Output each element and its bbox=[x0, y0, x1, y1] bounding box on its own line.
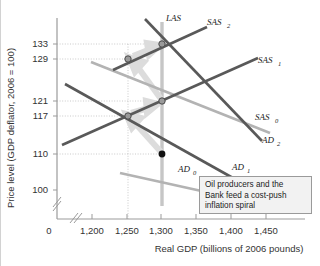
y-tick-label-133: 133 bbox=[32, 38, 48, 49]
annotation-line-2: Bank feed a cost-push bbox=[205, 191, 306, 202]
chart-svg: 133 129 121 117 110 100 0 1,200 1,250 1,… bbox=[0, 0, 320, 266]
point-1250-129 bbox=[125, 56, 131, 62]
ad0-label-sub: 0 bbox=[193, 169, 197, 176]
chart-container: 133 129 121 117 110 100 0 1,200 1,250 1,… bbox=[0, 0, 320, 266]
ad1-label-sub: 1 bbox=[247, 167, 250, 174]
ad2-label-sub: 2 bbox=[277, 140, 281, 147]
y-tick-label-121: 121 bbox=[32, 95, 48, 106]
sas0-label: SAS 0 bbox=[255, 112, 279, 124]
point-1300-110 bbox=[159, 151, 166, 158]
y-tick-label-110: 110 bbox=[33, 148, 48, 159]
x-axis-break-1 bbox=[70, 213, 78, 223]
ad0-label: AD 0 bbox=[177, 164, 197, 176]
point-1250-117 bbox=[125, 113, 131, 119]
sas1-label-sub: 1 bbox=[278, 60, 281, 67]
x-tick-label-1250: 1,250 bbox=[115, 225, 139, 236]
sas1-label: SAS 1 bbox=[258, 55, 281, 67]
sas1-label-base: SAS bbox=[258, 55, 273, 65]
point-1300-133 bbox=[159, 41, 165, 47]
annotation-line-1: Oil producers and the bbox=[205, 180, 306, 191]
y-tick-label-117: 117 bbox=[33, 110, 48, 121]
ad0-label-base: AD bbox=[177, 164, 190, 174]
sas0-label-base: SAS bbox=[255, 112, 270, 122]
x-tick-label-1400: 1,400 bbox=[219, 225, 243, 236]
x-tick-label-0: 0 bbox=[46, 225, 51, 236]
ad1-label: AD 1 bbox=[231, 162, 250, 174]
ad1-curve bbox=[65, 84, 233, 178]
sas2-label: SAS 2 bbox=[207, 17, 231, 29]
x-tick-label-1450: 1,450 bbox=[254, 225, 278, 236]
annotation-line-3: inflation spiral bbox=[205, 201, 306, 212]
las-label: LAS bbox=[165, 13, 182, 23]
point-1300-121 bbox=[159, 98, 165, 104]
sas2-label-sub: 2 bbox=[227, 22, 231, 29]
sas2-label-base: SAS bbox=[207, 17, 222, 27]
ad1-label-base: AD bbox=[231, 162, 244, 172]
arrow-shaft-1 bbox=[134, 122, 161, 152]
annotation-box: Oil producers and the Bank feed a cost-p… bbox=[199, 176, 312, 214]
y-tick-label-129: 129 bbox=[32, 53, 48, 64]
y-tick-label-100: 100 bbox=[32, 184, 48, 195]
x-axis-break-2 bbox=[74, 213, 82, 223]
x-axis-title: Real GDP (billions of 2006 pounds) bbox=[155, 243, 304, 254]
x-tick-label-1200: 1,200 bbox=[80, 225, 104, 236]
ad2-label: AD 2 bbox=[261, 135, 281, 147]
ad2-label-base: AD bbox=[261, 135, 274, 145]
x-tick-label-1300: 1,300 bbox=[149, 225, 173, 236]
sas0-label-sub: 0 bbox=[275, 117, 279, 124]
y-axis-title: Price level (GDP deflator, 2006 = 100) bbox=[5, 48, 16, 208]
x-tick-marks bbox=[92, 214, 266, 219]
x-tick-label-1350: 1,350 bbox=[184, 225, 208, 236]
